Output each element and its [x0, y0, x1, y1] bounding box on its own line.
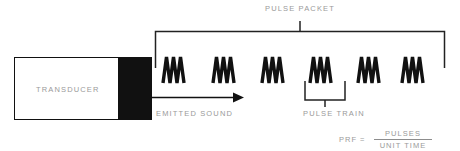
prf-label: PRF =: [339, 136, 365, 144]
pulse-1: [163, 57, 184, 83]
emitted-sound-arrow: [152, 93, 244, 103]
pulse-waveforms: [163, 57, 423, 83]
prf-denominator: UNIT TIME: [374, 140, 432, 149]
pulse-train-label: PULSE TRAIN: [303, 110, 365, 118]
pulse-6: [402, 57, 423, 83]
prf-equals: =: [360, 135, 365, 144]
prf-fraction: PULSES UNIT TIME: [374, 130, 432, 149]
prf-numerator: PULSES: [374, 130, 432, 139]
pulse-2: [213, 57, 234, 83]
pulse-train-bracket: [305, 81, 345, 107]
pulse-packet-label: PULSE PACKET: [265, 5, 335, 13]
pulse-packet-diagram: TRANSDUCER PULSE PACKET EMITTED SOUND PU…: [0, 0, 460, 151]
emitted-sound-label: EMITTED SOUND: [156, 110, 233, 118]
pulse-5: [358, 57, 379, 83]
prf-name: PRF: [339, 135, 357, 144]
pulse-packet-bracket: [156, 21, 445, 68]
pulse-4: [310, 57, 331, 83]
pulse-3: [262, 57, 283, 83]
